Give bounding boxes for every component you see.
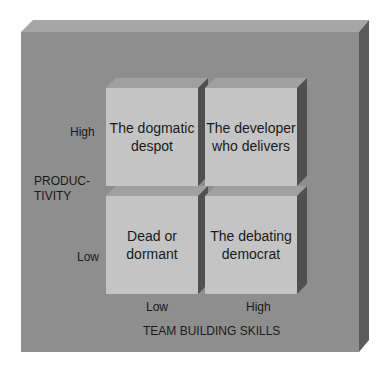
quadrant-label-line: The dogmatic <box>110 120 195 136</box>
quadrant-label-line: democrat <box>222 246 280 262</box>
quadrant-label: The developerwho delivers <box>205 88 297 186</box>
x-axis-high-label: High <box>246 300 271 314</box>
y-axis-low-label: Low <box>77 250 99 264</box>
y-axis-title-line: PRODUC- <box>34 174 90 188</box>
y-axis-high-label: High <box>70 125 95 139</box>
box-top <box>205 186 307 196</box>
quadrant-label-line: The developer <box>206 120 296 136</box>
x-axis-title: TEAM BUILDING SKILLS <box>143 324 280 338</box>
box-side <box>297 78 307 186</box>
quadrant-label: Dead ordormant <box>106 196 198 294</box>
x-axis-low-label: Low <box>146 300 168 314</box>
y-axis-title: PRODUC- TIVITY <box>34 174 90 204</box>
box-top <box>106 78 208 88</box>
box-top <box>106 186 208 196</box>
quadrant-label-line: Dead or <box>127 228 177 244</box>
box-side <box>297 186 307 294</box>
quadrant-label-line: The debating <box>210 228 292 244</box>
quadrant-label: The dogmaticdespot <box>106 88 198 186</box>
slab-top-bevel <box>21 20 369 32</box>
y-axis-title-line: TIVITY <box>34 189 71 203</box>
quadrant-label: The debatingdemocrat <box>205 196 297 294</box>
quadrant-label-line: dormant <box>126 246 177 262</box>
box-top <box>205 78 307 88</box>
slab-side-bevel <box>359 20 369 352</box>
quadrant-label-line: despot <box>131 138 173 154</box>
quadrant-label-line: who delivers <box>212 138 290 154</box>
